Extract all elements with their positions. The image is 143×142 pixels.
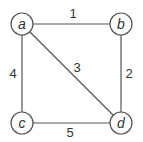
node-a: a — [11, 13, 33, 35]
node-d: d — [110, 112, 132, 134]
node-b: b — [110, 13, 132, 35]
edge-weight-label: 3 — [73, 60, 80, 75]
edge-weight-label: 2 — [125, 66, 132, 81]
node-c: c — [11, 112, 33, 134]
node-label: b — [117, 16, 125, 32]
edge-weight-label: 4 — [9, 66, 16, 81]
node-label: d — [117, 115, 126, 131]
edge-a-d — [22, 24, 121, 123]
node-label: a — [18, 16, 26, 32]
graph-diagram: 12345 abcd — [0, 0, 143, 142]
edge-weight-label: 5 — [66, 125, 73, 140]
node-label: c — [19, 115, 26, 131]
edge-weight-label: 1 — [69, 6, 76, 21]
